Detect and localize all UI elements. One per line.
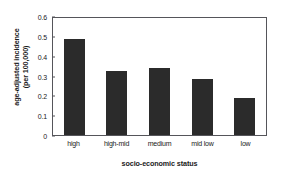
y-axis-tick-mark — [52, 56, 55, 57]
bar — [64, 39, 85, 135]
y-axis-tick-label: 0.5 — [38, 33, 47, 40]
y-axis-title-line-1: age-adjusted incidence — [12, 7, 21, 127]
bar-slot — [138, 18, 181, 135]
bar-slot — [96, 18, 139, 135]
y-axis-tick-mark — [52, 36, 55, 37]
y-axis-tick-label: 0.6 — [38, 14, 47, 21]
y-axis-tick-mark — [52, 76, 55, 77]
bar — [106, 71, 127, 135]
bar-series — [53, 18, 266, 135]
y-axis-tick-label: 0.3 — [38, 73, 47, 80]
y-axis-tick-label: 0.4 — [38, 53, 47, 60]
x-axis-tick-label: low — [224, 140, 267, 147]
bar-slot — [181, 18, 224, 135]
plot-area — [52, 17, 267, 136]
y-axis-tick-label: 0.2 — [38, 93, 47, 100]
x-axis-tick-label: mid low — [181, 140, 224, 147]
bar-slot — [53, 18, 96, 135]
bar — [149, 68, 170, 135]
bar — [234, 98, 255, 135]
y-axis-tick-mark — [52, 17, 55, 18]
bar-slot — [223, 18, 266, 135]
y-axis-tick-labels: 00.10.20.30.40.50.6 — [24, 17, 47, 136]
x-axis-title: socio-economic status — [52, 159, 267, 168]
x-axis-tick-label: medium — [138, 140, 181, 147]
y-axis-tick-mark — [52, 116, 55, 117]
bar — [192, 79, 213, 135]
y-axis-tick-label: 0 — [43, 133, 47, 140]
y-axis-tick-label: 0.1 — [38, 113, 47, 120]
y-axis-tick-mark — [52, 96, 55, 97]
x-axis-tick-label: high-mid — [95, 140, 138, 147]
x-axis-tick-label: high — [52, 140, 95, 147]
y-axis-tick-mark — [52, 136, 55, 137]
x-axis-tick-labels: highhigh-midmediummid lowlow — [52, 140, 267, 147]
bar-chart-figure: age-adjusted incidence (per 100,000) 00.… — [0, 0, 291, 180]
